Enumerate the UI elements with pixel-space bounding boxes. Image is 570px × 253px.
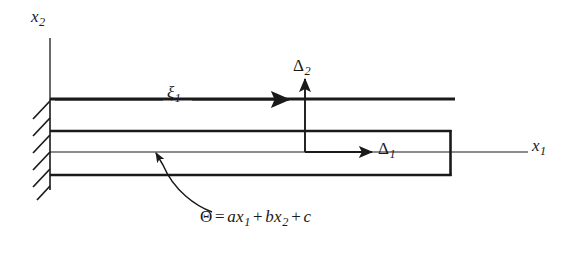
temperature-field-equation: Θ=ax1+bx2+c — [200, 208, 311, 225]
x1-axis-label-subscript: 1 — [540, 144, 547, 158]
delta1-label: Δ1 — [378, 140, 396, 157]
equation-term2-subscript: 2 — [282, 215, 289, 229]
xi1-label-subscript: 1 — [174, 91, 181, 105]
delta2-label-subscript: 2 — [304, 64, 311, 78]
equation-term3: c — [303, 207, 311, 226]
delta2-label-base: Δ — [293, 56, 304, 75]
delta1-label-subscript: 1 — [389, 147, 396, 161]
equation-term1-coeff: a — [227, 207, 236, 226]
equation-term2-coeff: b — [265, 207, 274, 226]
xi1-label: ξ1 — [167, 84, 181, 101]
delta2-label: Δ2 — [293, 57, 311, 74]
x2-axis-label: x2 — [31, 8, 45, 25]
cantilever-beam-figure: x2 x1 ξ1 Δ2 Δ1 Θ=ax1+bx2+c — [0, 0, 570, 253]
equation-lhs: Θ — [200, 207, 212, 226]
equation-plus-1: + — [251, 207, 266, 226]
x1-axis-label-base: x — [532, 136, 540, 155]
equation-term1-var: x — [236, 207, 244, 226]
equation-equals: = — [212, 207, 227, 226]
x2-axis-label-subscript: 2 — [39, 15, 46, 29]
equation-term2-var: x — [274, 207, 282, 226]
equation-term1-subscript: 1 — [244, 215, 251, 229]
equation-leader-arrow — [156, 153, 212, 212]
x1-axis-label: x1 — [532, 137, 546, 154]
beam-body — [50, 99, 455, 176]
fixed-support — [33, 99, 50, 200]
equation-plus-2: + — [289, 207, 304, 226]
support-hatching — [33, 101, 50, 200]
delta1-label-base: Δ — [378, 139, 389, 158]
x2-axis-label-base: x — [31, 7, 39, 26]
